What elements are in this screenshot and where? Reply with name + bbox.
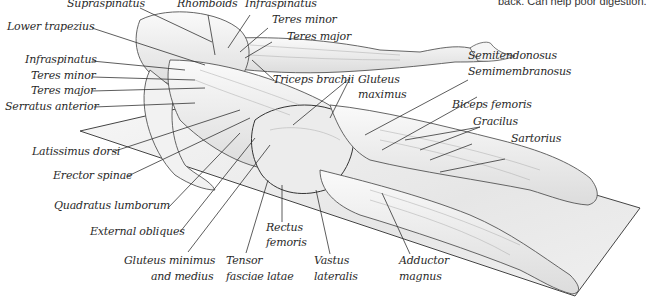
label-vastus-1: Vastus	[314, 254, 349, 267]
label-teres-minor-top: Teres minor	[272, 13, 337, 26]
label-semitendonosus: Semitendonosus	[468, 49, 557, 62]
label-teres-major-left: Teres major	[31, 84, 95, 97]
label-semimembranosus: Semimembranosus	[468, 65, 571, 78]
label-teres-minor-left: Teres minor	[31, 69, 96, 82]
label-supraspinatus: Supraspinatus	[67, 0, 145, 10]
label-infraspinatus-top: Infraspinatus	[245, 0, 317, 10]
label-lower-trapezius: Lower trapezius	[7, 20, 94, 33]
label-sartorius: Sartorius	[511, 132, 561, 145]
label-gluteus-minimus-1: Gluteus minimus	[124, 254, 215, 267]
label-biceps-femoris: Biceps femoris	[452, 98, 532, 111]
label-infraspinatus-left: Infraspinatus	[25, 53, 97, 66]
label-teres-major-top: Teres major	[287, 30, 351, 43]
label-vastus-2: lateralis	[314, 270, 358, 283]
label-gracilus: Gracilus	[473, 115, 518, 128]
label-latissimus-dorsi: Latissimus dorsi	[32, 145, 120, 158]
label-triceps-brachii: Triceps brachii	[273, 73, 354, 86]
label-gluteus-minimus-2: and medius	[151, 270, 213, 283]
label-rectus-femoris-2: femoris	[266, 236, 307, 249]
label-quadratus-lumborum: Quadratus lumborum	[54, 199, 170, 212]
label-tensor-2: fasciae latae	[226, 270, 293, 283]
label-adductor-1: Adductor	[399, 254, 449, 267]
label-rhomboids: Rhomboids	[177, 0, 238, 10]
label-rectus-femoris-1: Rectus	[266, 221, 303, 234]
label-serratus-anterior: Serratus anterior	[5, 100, 99, 113]
label-gluteus-maximus-1: Gluteus	[358, 73, 400, 86]
label-tensor-1: Tensor	[226, 254, 262, 267]
label-adductor-2: magnus	[399, 270, 442, 283]
label-external-obliques: External obliques	[90, 225, 185, 238]
label-erector-spinae: Erector spinae	[53, 169, 132, 182]
label-gluteus-maximus-2: maximus	[358, 88, 406, 101]
